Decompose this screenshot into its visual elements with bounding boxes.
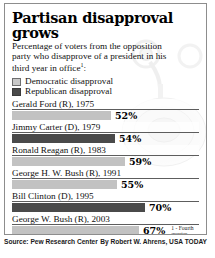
legend-swatch-democratic-icon (12, 78, 21, 86)
page-title: Partisan disapproval grows (12, 10, 199, 40)
bar-line: 70% (12, 203, 199, 213)
bar-fill (12, 180, 117, 189)
bar-value-label: 70% (149, 202, 171, 213)
bar-line: 55% (12, 180, 199, 190)
subtitle-line-3: third year in office (12, 63, 80, 73)
bar-value-label: 67% (143, 225, 165, 235)
legend-item-republican: Republican disapproval (12, 87, 199, 97)
bar-value-label: 54% (119, 133, 141, 144)
bar-row-label: George W. Bush (R), 2003 (12, 214, 199, 225)
bar-row-label: Ronald Reagan (R), 1983 (12, 145, 199, 156)
chart-subtitle: Percentage of voters from the opposition… (12, 42, 182, 74)
subtitle-colon: : (83, 63, 86, 73)
bar-line: 59% (12, 157, 199, 167)
bar-line: 67% 1 - Fourth quarter (12, 226, 199, 235)
bar-fill (12, 157, 125, 166)
bar-fill (12, 226, 139, 235)
bar-rows: Gerald Ford (R), 1975 52% Jimmy Carter (… (12, 99, 199, 235)
bar-row-label: Gerald Ford (R), 1975 (12, 99, 199, 110)
subtitle-line-1: Percentage of voters from the opposition (12, 41, 162, 51)
subtitle-line-2: party who disapprove of a president in h… (12, 51, 166, 61)
bar-value-label: 55% (121, 179, 143, 190)
bar-row: George W. Bush (R), 2003 67% 1 - Fourth … (12, 214, 199, 235)
footnote-line-2: quarter (171, 231, 187, 235)
bar-value-label: 52% (115, 110, 137, 121)
legend-label-republican: Republican disapproval (25, 87, 112, 97)
bar-fill (12, 203, 145, 212)
bar-fill (12, 111, 111, 120)
bar-row: Gerald Ford (R), 1975 52% (12, 99, 199, 121)
bar-row-label: Jimmy Carter (D), 1979 (12, 122, 199, 133)
bar-row: Bill Clinton (D), 1995 70% (12, 191, 199, 213)
chart-legend: Democratic disapproval Republican disapp… (12, 77, 199, 97)
bar-row-label: Bill Clinton (D), 1995 (12, 191, 199, 202)
bar-line: 54% (12, 134, 199, 144)
legend-swatch-republican-icon (12, 88, 21, 96)
chart-footer: Source: Pew Research Center By Robert W.… (4, 238, 207, 245)
chart-graphic: Partisan disapproval grows Percentage of… (4, 3, 207, 235)
bar-value-label: 59% (129, 156, 151, 167)
bar-line: 52% (12, 111, 199, 121)
legend-label-democratic: Democratic disapproval (25, 77, 113, 87)
source-label: Source: Pew Research Center (4, 238, 98, 245)
bar-row: George H. W. Bush (R), 1991 55% (12, 168, 199, 190)
bar-row: Jimmy Carter (D), 1979 54% (12, 122, 199, 144)
legend-item-democratic: Democratic disapproval (12, 77, 199, 87)
bar-row-label: George H. W. Bush (R), 1991 (12, 168, 199, 179)
bar-fill (12, 134, 115, 143)
footnote-annotation: 1 - Fourth quarter (171, 225, 193, 235)
credit-label: By Robert W. Ahrens, USA TODAY (100, 238, 207, 245)
bar-row: Ronald Reagan (R), 1983 59% (12, 145, 199, 167)
chart-inner: Partisan disapproval grows Percentage of… (5, 4, 206, 235)
